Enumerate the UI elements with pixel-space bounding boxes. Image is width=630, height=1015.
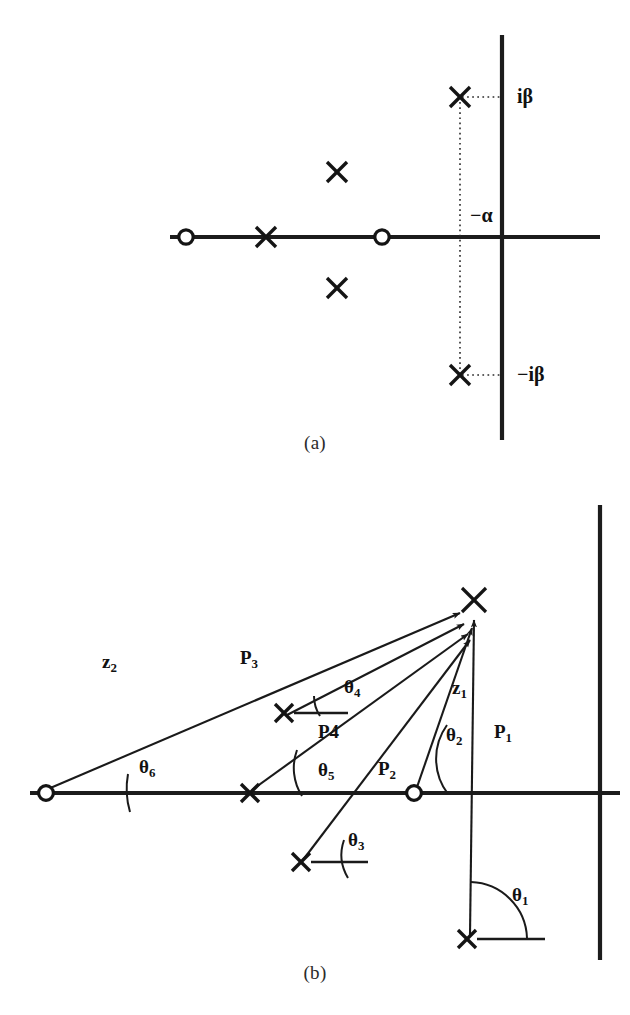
label-P1-base: P — [494, 721, 506, 742]
label-theta4-sub: 4 — [354, 685, 360, 700]
label-theta6-base: θ — [139, 756, 149, 777]
label-theta1-base: θ — [512, 884, 522, 905]
zero-marker-far-left-b — [39, 786, 54, 801]
label-theta4: θ4 — [344, 677, 360, 700]
label-i-beta: iβ — [517, 86, 533, 106]
label-theta6: θ6 — [139, 757, 155, 780]
label-theta3: θ3 — [348, 830, 364, 853]
vector-P1 — [470, 620, 474, 935]
label-z1: z1 — [452, 678, 467, 701]
label-theta1: θ1 — [512, 885, 528, 908]
cropped-caption-sliver — [0, 1003, 630, 1015]
label-theta3-sub: 3 — [358, 838, 364, 853]
label-P4: P4 — [318, 722, 339, 741]
pole-marker-lower-mid-a — [327, 278, 347, 298]
label-P3-sub: 3 — [252, 656, 258, 671]
label-z2-sub: 2 — [110, 660, 116, 675]
label-theta5: θ5 — [318, 760, 334, 783]
panel-b-svg — [0, 500, 630, 1015]
label-P1-sub: 1 — [506, 730, 512, 745]
label-P2-sub: 2 — [390, 767, 396, 782]
label-neg-alpha: −α — [470, 205, 493, 225]
vector-P2 — [303, 640, 470, 860]
label-z1-sub: 1 — [460, 686, 466, 701]
pole-marker-upper-mid-a — [327, 162, 347, 182]
label-theta3-base: θ — [348, 829, 358, 850]
label-z2: z2 — [102, 652, 117, 675]
label-P3-base: P — [240, 647, 252, 668]
pole-marker-theta1-b — [458, 930, 476, 948]
zero-marker-left-a — [179, 230, 193, 244]
panel-a-pole-zero-plot: iβ −iβ −α (a) — [0, 0, 630, 500]
panel-a-svg — [0, 0, 630, 500]
label-theta1-sub: 1 — [522, 893, 528, 908]
pole-marker-conjugate-upper-a — [450, 87, 470, 107]
label-theta5-base: θ — [318, 759, 328, 780]
pole-marker-theta3-b — [292, 853, 310, 871]
label-P3: P3 — [240, 648, 258, 671]
caption-panel-a: (a) — [0, 432, 630, 454]
panel-b-vector-construction: z2 P3 P4 P2 z1 P1 θ6 θ5 θ3 θ4 θ2 θ1 (b) — [0, 500, 630, 1015]
label-theta6-sub: 6 — [149, 765, 155, 780]
label-P1: P1 — [494, 722, 512, 745]
label-P4-base: P4 — [318, 721, 339, 742]
label-theta2: θ2 — [446, 725, 462, 748]
label-theta4-base: θ — [344, 676, 354, 697]
label-theta2-sub: 2 — [456, 733, 462, 748]
label-P2: P2 — [378, 759, 396, 782]
label-neg-i-beta: −iβ — [517, 364, 545, 384]
vector-z2 — [48, 613, 460, 789]
label-theta5-sub: 5 — [328, 768, 334, 783]
pole-marker-evaluation-point-b — [462, 588, 486, 612]
caption-panel-b: (b) — [0, 962, 630, 984]
zero-marker-right-a — [375, 230, 389, 244]
zero-marker-right-b — [407, 786, 422, 801]
label-P2-base: P — [378, 758, 390, 779]
label-theta2-base: θ — [446, 724, 456, 745]
